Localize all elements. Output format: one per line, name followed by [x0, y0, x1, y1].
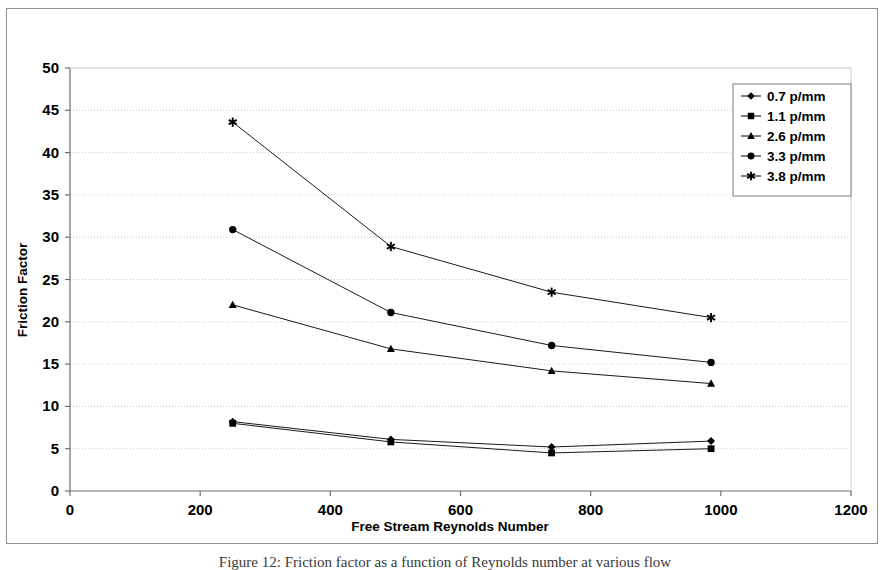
- marker-circle: [548, 342, 555, 349]
- y-tick-label-35: 35: [42, 186, 59, 203]
- marker-square: [229, 420, 236, 427]
- marker-square: [387, 439, 394, 446]
- series-line: [233, 422, 711, 447]
- x-axis-title: Free Stream Reynolds Number: [351, 519, 549, 534]
- series-line: [233, 122, 711, 317]
- legend-label: 1.1 p/mm: [767, 109, 826, 124]
- x-tick-label-200: 200: [188, 501, 213, 518]
- marker-circle: [748, 153, 755, 160]
- marker-square: [708, 445, 715, 452]
- legend-label: 2.6 p/mm: [767, 129, 826, 144]
- series-3-3-p-mm: [229, 226, 715, 366]
- x-axis-tick-labels: 020040060080010001200: [66, 501, 868, 518]
- legend-label: 3.8 p/mm: [767, 169, 826, 184]
- series-line: [233, 305, 711, 384]
- legend-label: 0.7 p/mm: [767, 89, 826, 104]
- series-3-8-p-mm: [229, 118, 715, 323]
- marker-square: [548, 450, 555, 457]
- x-tick-label-800: 800: [578, 501, 603, 518]
- series-line: [233, 230, 711, 363]
- marker-circle: [229, 226, 236, 233]
- y-tick-label-45: 45: [42, 101, 59, 118]
- y-tick-label-10: 10: [42, 397, 59, 414]
- y-tick-label-5: 5: [51, 440, 59, 457]
- marker-triangle: [229, 301, 237, 308]
- series-1-1-p-mm: [229, 420, 714, 456]
- figure-root: 05101520253035404550 0200400600800100012…: [0, 0, 890, 570]
- y-axis-tick-labels: 05101520253035404550: [42, 59, 59, 499]
- legend-label: 3.3 p/mm: [767, 149, 826, 164]
- marker-star: [229, 118, 237, 127]
- x-tick-label-1200: 1200: [834, 501, 867, 518]
- x-tick-label-600: 600: [448, 501, 473, 518]
- y-tick-label-0: 0: [51, 482, 59, 499]
- y-axis-tick-marks: [65, 68, 70, 491]
- x-tick-label-0: 0: [66, 501, 74, 518]
- y-tick-label-20: 20: [42, 313, 59, 330]
- legend-box: 0.7 p/mm1.1 p/mm2.6 p/mm3.3 p/mm3.8 p/mm: [733, 84, 851, 196]
- x-tick-label-1000: 1000: [704, 501, 737, 518]
- friction-factor-line-chart: 05101520253035404550 0200400600800100012…: [0, 0, 890, 570]
- x-axis-tick-marks: [70, 491, 851, 496]
- y-tick-label-15: 15: [42, 355, 59, 372]
- data-series-group: [229, 118, 715, 457]
- series-0-7-p-mm: [229, 418, 715, 451]
- marker-circle: [387, 309, 394, 316]
- x-tick-label-400: 400: [318, 501, 343, 518]
- series-2-6-p-mm: [229, 301, 715, 387]
- marker-square: [748, 113, 754, 119]
- y-tick-label-25: 25: [42, 271, 59, 288]
- y-tick-label-50: 50: [42, 59, 59, 76]
- y-tick-label-40: 40: [42, 144, 59, 161]
- marker-circle: [707, 359, 714, 366]
- marker-diamond: [707, 437, 715, 445]
- y-tick-label-30: 30: [42, 228, 59, 245]
- marker-star: [387, 242, 395, 251]
- figure-caption: Figure 12: Friction factor as a function…: [0, 552, 890, 570]
- y-axis-title: Friction Factor: [15, 242, 30, 337]
